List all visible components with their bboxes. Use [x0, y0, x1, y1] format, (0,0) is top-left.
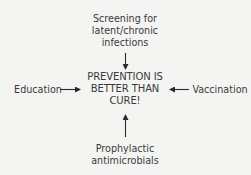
education-text: Education [10, 84, 66, 96]
screening-line-3: infections [75, 37, 175, 49]
prophylactic-label: Prophylactic antimicrobials [75, 143, 175, 167]
prophylactic-line-1: Prophylactic [75, 143, 175, 155]
prophylactic-line-2: antimicrobials [75, 155, 175, 167]
vaccination-text: Vaccination [192, 84, 248, 96]
center-line-3: CURE! [70, 95, 180, 107]
center-line-2: BETTER THAN [70, 83, 180, 95]
screening-line-2: latent/chronic [75, 25, 175, 37]
center-line-1: PREVENTION IS [70, 71, 180, 83]
screening-line-1: Screening for [75, 13, 175, 25]
central-message: PREVENTION IS BETTER THAN CURE! [70, 71, 180, 107]
screening-label: Screening for latent/chronic infections [75, 13, 175, 49]
vaccination-label: Vaccination [192, 84, 248, 96]
education-label: Education [10, 84, 66, 96]
